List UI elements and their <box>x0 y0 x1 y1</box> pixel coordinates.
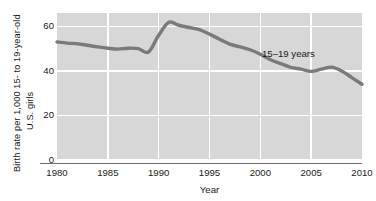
x-tick-label-1995: 1995 <box>190 167 230 178</box>
chart-figure: Birth rate per 1,000 15- to 19-year-old … <box>0 0 376 201</box>
x-axis-line <box>40 163 362 164</box>
x-tick-label-2005: 2005 <box>291 167 331 178</box>
x-axis-label: Year <box>57 184 362 195</box>
y-axis-label-line-2: U.S. girls <box>25 92 35 130</box>
plot-area <box>57 13 362 160</box>
y-tick-label-40: 40 <box>36 65 54 76</box>
y-tick-label-20: 20 <box>36 109 54 120</box>
series-line-chart <box>57 13 362 160</box>
x-tick-label-2000: 2000 <box>240 167 280 178</box>
x-tick-label-1990: 1990 <box>139 167 179 178</box>
x-tick-label-1985: 1985 <box>88 167 128 178</box>
series-annotation-15-19-years: 15–19 years <box>262 48 315 59</box>
x-tick-label-2010: 2010 <box>342 167 376 178</box>
y-axis-label-line-1: Birth rate per 1,000 15- to 19-year-old <box>12 14 22 172</box>
y-axis-label: Birth rate per 1,000 15- to 19-year-old … <box>0 0 34 175</box>
series-line-15-19-years <box>57 22 362 84</box>
y-tick-label-60: 60 <box>36 20 54 31</box>
x-tick-label-1980: 1980 <box>37 167 77 178</box>
